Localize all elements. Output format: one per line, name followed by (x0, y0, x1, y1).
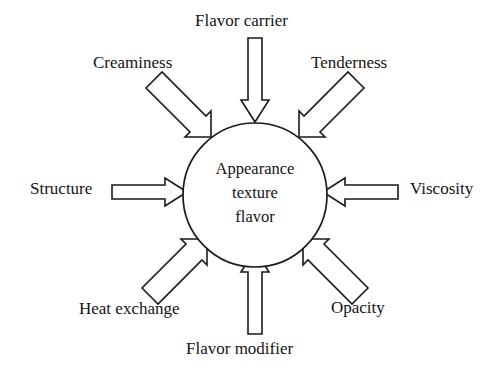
arrow-creaminess (146, 72, 211, 137)
label-tenderness: Tenderness (311, 54, 387, 71)
radial-diagram: Appearance texture flavor Flavor carrier… (0, 0, 503, 374)
label-creaminess: Creaminess (93, 54, 172, 71)
arrow-structure (112, 178, 187, 206)
label-structure: Structure (30, 180, 92, 197)
label-flavor-carrier: Flavor carrier (195, 12, 288, 29)
label-opacity: Opacity (331, 299, 385, 316)
hub-label-line2: texture (232, 183, 278, 202)
arrow-viscosity (323, 178, 398, 206)
arrow-opacity (303, 239, 368, 304)
hub-label-line3: flavor (235, 207, 275, 226)
arrow-heat-exchange (142, 239, 207, 304)
arrow-flavor-carrier (241, 38, 269, 122)
label-flavor-modifier: Flavor modifier (186, 340, 293, 357)
arrow-tenderness (299, 72, 364, 137)
label-heat-exchange: Heat exchange (79, 300, 180, 317)
hub-label-line1: Appearance (216, 159, 295, 178)
label-viscosity: Viscosity (410, 180, 473, 197)
